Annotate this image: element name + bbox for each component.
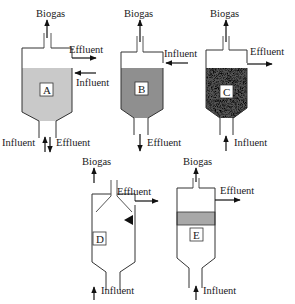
reactor-d: Biogas Effluent D Influent	[82, 156, 158, 300]
reactor-a-biogas-label: Biogas	[36, 8, 65, 19]
reactor-c-effluent-label: Effluent	[250, 46, 284, 57]
reactor-d-influent-label: Influent	[101, 285, 134, 296]
reactor-e-influent-label: Influent	[203, 285, 236, 296]
reactor-diagram: Biogas Effluent Influent A Influent Effl…	[0, 0, 295, 304]
reactor-c-biogas-label: Biogas	[210, 8, 239, 19]
reactor-c-influent-label: Influent	[234, 137, 267, 148]
reactor-c-tag: C	[223, 86, 230, 98]
reactor-e: Biogas Effluent E Influent	[177, 156, 254, 300]
reactor-d-effluent-label: Effluent	[117, 186, 151, 197]
reactor-e-effluent-label: Effluent	[220, 185, 254, 196]
reactor-b-influent-label: Influent	[164, 48, 197, 59]
reactor-a-influent-side-label: Influent	[76, 77, 109, 88]
reactor-b-tag: B	[138, 83, 145, 95]
reactor-a: Biogas Effluent Influent A Influent Effl…	[2, 8, 109, 152]
reactor-a-effluent-bottom-label: Effluent	[56, 137, 90, 148]
reactor-e-tag: E	[193, 229, 200, 241]
reactor-c: Biogas Effluent C Influent	[206, 8, 284, 151]
reactor-d-tag: D	[96, 233, 104, 245]
reactor-b-effluent-label: Effluent	[147, 137, 181, 148]
reactor-b: Biogas Influent B Effluent	[121, 8, 197, 151]
reactor-a-effluent-label: Effluent	[69, 44, 103, 55]
reactor-a-tag: A	[43, 84, 51, 96]
reactor-a-influent-bottom-label: Influent	[2, 137, 35, 148]
reactor-b-biogas-label: Biogas	[124, 8, 153, 19]
reactor-d-biogas-label: Biogas	[82, 156, 111, 167]
reactor-e-biogas-label: Biogas	[183, 156, 212, 167]
